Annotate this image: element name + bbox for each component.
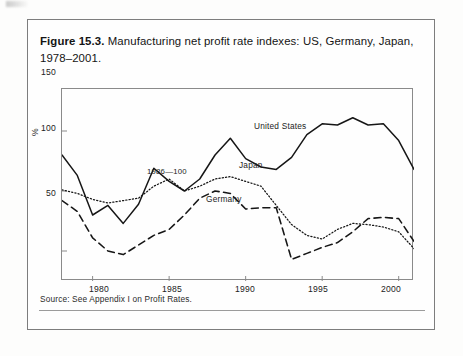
- xtick-label-1995: 1995: [300, 284, 336, 294]
- ytick-label-150: 150: [32, 67, 56, 77]
- xtick-label-1990: 1990: [227, 284, 263, 294]
- xtick-label-1980: 1980: [81, 284, 117, 294]
- scan-artifact: [6, 1, 28, 7]
- caption-divider: [39, 310, 425, 311]
- index-base-annotation: 1986—100: [147, 167, 187, 176]
- figure-container: Figure 15.3. Manufacturing net profit ra…: [27, 19, 435, 330]
- series-label-germany: Germany: [206, 194, 242, 204]
- y-axis-title: %: [30, 128, 40, 136]
- plot-frame: [61, 88, 413, 280]
- page-canvas: Figure 15.3. Manufacturing net profit ra…: [0, 0, 463, 356]
- series-label-japan: Japan: [239, 160, 263, 170]
- figure-caption: Figure 15.3. Manufacturing net profit ra…: [40, 33, 425, 66]
- ytick-label-50: 50: [32, 188, 56, 198]
- chart-plot-area: [62, 89, 414, 281]
- source-note: Source: See Appendix I on Profit Rates.: [40, 294, 192, 304]
- series-label-united-states: United States: [254, 121, 306, 131]
- xtick-label-1985: 1985: [154, 284, 190, 294]
- xtick-label-2000: 2000: [373, 284, 409, 294]
- figure-number: Figure 15.3.: [40, 35, 105, 47]
- series-line-united-states: [62, 118, 414, 224]
